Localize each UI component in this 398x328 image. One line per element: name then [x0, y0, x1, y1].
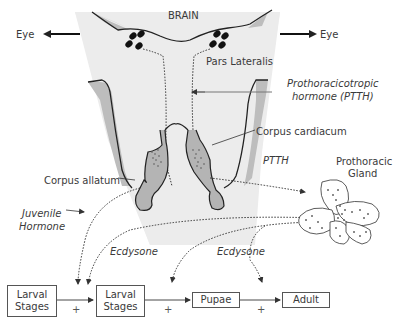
pars-lateralis-label: Pars Lateralis — [206, 56, 273, 67]
stage-box-larval-1: Larval Stages — [7, 285, 57, 317]
juvenile-hormone-label-line2: Hormone — [19, 221, 65, 232]
prothoracic-gland-label-line1: Prothoracic — [336, 156, 392, 167]
plus-sign-2: + — [164, 304, 172, 315]
ptth-full-label-line2: hormone (PTTH) — [292, 91, 374, 102]
ptth-full-label-line1: Prothoracicotropic — [287, 78, 379, 89]
prothoracic-gland-label-line2: Gland — [348, 168, 377, 179]
stage-label: Pupae — [201, 294, 232, 306]
brain-label: BRAIN — [168, 10, 199, 21]
eye-label-left: Eye — [16, 29, 34, 40]
stage-label-line1: Larval — [17, 289, 48, 301]
stage-box-pupae: Pupae — [192, 292, 240, 308]
juvenile-hormone-label-line1: Juvenile — [22, 208, 61, 219]
ecdysone-label-1: Ecdysone — [110, 246, 158, 257]
corpus-cardiacum-label: Corpus cardiacum — [256, 126, 347, 137]
ecdysone-label-2: Ecdysone — [217, 246, 265, 257]
plus-sign-1: + — [72, 304, 80, 315]
stage-label-line2: Stages — [15, 301, 49, 313]
stage-label-line2: Stages — [103, 301, 137, 313]
corpus-allatum-label: Corpus allatum — [44, 175, 120, 186]
stage-label: Adult — [293, 294, 319, 306]
eye-label-right: Eye — [320, 29, 338, 40]
stage-label-line1: Larval — [105, 289, 136, 301]
stage-box-adult: Adult — [282, 292, 330, 308]
ptth-short-label: PTTH — [263, 155, 289, 166]
prothoracic-gland — [299, 180, 380, 244]
plus-sign-3: + — [257, 304, 265, 315]
stage-box-larval-2: Larval Stages — [96, 285, 145, 317]
